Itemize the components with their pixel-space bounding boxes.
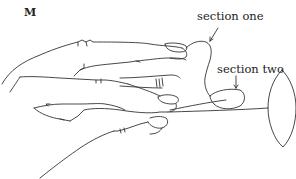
section-one-loop xyxy=(186,41,211,96)
lower-hand xyxy=(34,84,178,178)
weight-disc xyxy=(268,70,296,147)
upper-hand xyxy=(2,40,187,92)
ring xyxy=(120,75,180,88)
string xyxy=(170,28,268,112)
section-two-loop xyxy=(210,89,245,109)
hands-string-illustration xyxy=(0,0,296,179)
